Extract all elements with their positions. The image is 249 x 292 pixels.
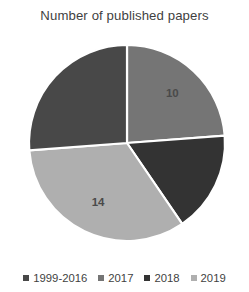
legend-item-label: 1999-2016 (33, 273, 87, 284)
legend-item-1999-2016[interactable]: 1999-2016 (23, 273, 87, 284)
legend-swatch-icon (98, 275, 104, 281)
chart-title: Number of published papers (0, 8, 249, 23)
pie-svg: 1014 (0, 28, 249, 256)
pie-chart-figure: Number of published papers 1014 1999-201… (0, 0, 249, 292)
legend-swatch-icon (23, 275, 29, 281)
pie-plot-area: 1014 (0, 28, 249, 256)
legend-item-2018[interactable]: 2018 (144, 273, 179, 284)
pie-data-label-2017: 10 (166, 87, 179, 99)
pie-data-label-2019: 14 (92, 196, 105, 208)
pie-slice-1999-2016 (29, 45, 127, 150)
legend-item-label: 2018 (154, 273, 179, 284)
legend-item-label: 2017 (108, 273, 133, 284)
legend-swatch-icon (191, 275, 197, 281)
legend-item-2017[interactable]: 2017 (98, 273, 133, 284)
chart-legend: 1999-2016201720182019 (0, 273, 249, 284)
legend-swatch-icon (144, 275, 150, 281)
legend-item-2019[interactable]: 2019 (191, 273, 226, 284)
pie-slice-group (29, 45, 225, 241)
legend-item-label: 2019 (201, 273, 226, 284)
